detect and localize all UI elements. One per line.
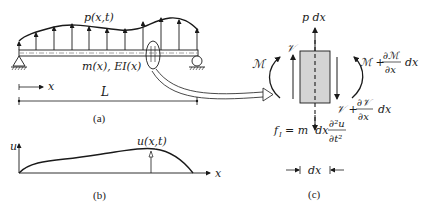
svg-text:dx: dx bbox=[405, 56, 419, 69]
left-moment-arc bbox=[270, 57, 281, 98]
u-axis-label: u bbox=[10, 140, 17, 153]
beam bbox=[19, 50, 198, 56]
svg-text:∂𝒱: ∂𝒱 bbox=[357, 97, 374, 108]
width-dimension: dx bbox=[286, 164, 344, 177]
left-shear-label: 𝒱 bbox=[286, 42, 299, 55]
svg-text:∂x: ∂x bbox=[385, 64, 396, 75]
deflection-curve bbox=[19, 148, 193, 173]
svg-text:∂ℳ: ∂ℳ bbox=[383, 50, 400, 61]
svg-text:∂t²: ∂t² bbox=[329, 133, 342, 144]
length-dimension: L bbox=[18, 85, 198, 105]
caption-c: (c) bbox=[308, 188, 321, 201]
roller-support bbox=[189, 56, 205, 70]
svg-text:𝒱 +: 𝒱 + bbox=[336, 103, 358, 116]
right-moment-label: ℳ + ∂ℳ ∂x dx bbox=[360, 50, 419, 75]
length-label: L bbox=[100, 85, 109, 99]
caption-b: (b) bbox=[93, 189, 106, 202]
load-label: p(x,t) bbox=[84, 11, 114, 24]
load-label-c: p dx bbox=[302, 11, 327, 24]
left-moment-label: ℳ bbox=[252, 57, 267, 71]
beam-dynamics-figure: p(x,t) m(x), EI(x) x bbox=[0, 0, 431, 212]
panel-b: u x u(x,t) (b) bbox=[10, 135, 222, 202]
width-label: dx bbox=[308, 164, 322, 177]
panel-a: p(x,t) m(x), EI(x) x bbox=[11, 11, 205, 125]
x-direction-indicator: x bbox=[19, 80, 55, 93]
beam-properties-label: m(x), EI(x) bbox=[82, 60, 141, 73]
x-axis-label-b: x bbox=[215, 167, 222, 180]
svg-text:∂x: ∂x bbox=[358, 111, 369, 122]
panel-c: p dx 𝒱 ℳ ℳ + ∂ℳ ∂x dx 𝒱 + ∂𝒱 ∂x dx bbox=[252, 11, 419, 201]
svg-text:dx: dx bbox=[378, 103, 392, 116]
svg-text:I: I bbox=[278, 131, 282, 139]
pin-support bbox=[11, 56, 27, 70]
svg-text:= m dx: = m dx bbox=[285, 124, 329, 137]
x-axis-label: x bbox=[48, 80, 55, 93]
caption-a: (a) bbox=[93, 112, 106, 125]
inertia-force-label: f I = m dx ∂²u ∂t² bbox=[273, 118, 346, 144]
svg-text:∂²u: ∂²u bbox=[329, 118, 345, 129]
deflection-label: u(x,t) bbox=[137, 135, 167, 148]
zoom-arrow bbox=[152, 69, 273, 101]
svg-text:ℳ +: ℳ + bbox=[360, 56, 385, 69]
